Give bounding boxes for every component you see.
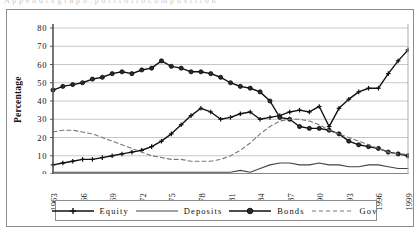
circle-marker xyxy=(150,66,154,70)
circle-marker xyxy=(120,70,124,74)
chart-figure: Percentage 01020304050607080 19631966196… xyxy=(6,9,414,227)
circle-marker xyxy=(248,86,252,90)
series-line xyxy=(53,119,408,161)
circle-marker xyxy=(80,81,84,85)
y-tick-label: 80 xyxy=(37,24,47,33)
circle-marker xyxy=(110,72,114,76)
legend-item-deposits[interactable]: Deposits xyxy=(134,201,228,220)
legend-item-gov[interactable]: Gov xyxy=(310,201,383,220)
series-gov xyxy=(53,119,408,161)
y-tick-label: 70 xyxy=(37,41,47,51)
y-tick-label: 50 xyxy=(37,78,47,88)
circle-marker xyxy=(179,66,183,70)
series-deposits xyxy=(53,163,408,172)
circle-marker xyxy=(140,68,144,72)
chart-svg: 01020304050607080 xyxy=(27,24,409,174)
legend-label: Equity xyxy=(96,206,134,216)
circle-marker xyxy=(297,124,301,128)
circle-marker xyxy=(169,64,173,68)
legend-swatch-plus-marker xyxy=(50,205,96,217)
circle-marker xyxy=(100,75,104,79)
legend-swatch-circle-marker xyxy=(227,205,273,217)
circle-marker xyxy=(268,99,272,103)
ghost-header-text: A p p e n d i x g r a p h : p o r t f o … xyxy=(4,0,216,5)
series-equity xyxy=(51,48,409,168)
circle-marker xyxy=(258,90,262,94)
circle-marker xyxy=(228,81,232,85)
series-line xyxy=(53,163,408,172)
y-tick-label: 0 xyxy=(42,169,47,174)
circle-marker xyxy=(357,143,361,147)
circle-marker xyxy=(317,126,321,130)
series-line xyxy=(53,61,408,156)
legend-swatch-none xyxy=(134,205,180,217)
circle-marker xyxy=(248,208,254,214)
legend-swatch-none xyxy=(310,205,356,217)
page-top-strip: A p p e n d i x g r a p h : p o r t f o … xyxy=(0,0,420,9)
circle-marker xyxy=(189,70,193,74)
circle-marker xyxy=(130,72,134,76)
legend-item-equity[interactable]: Equity xyxy=(50,201,134,220)
series-line xyxy=(53,50,408,165)
circle-marker xyxy=(209,72,213,76)
chart-legend: EquityDepositsBondsGov xyxy=(55,200,377,221)
circle-marker xyxy=(199,70,203,74)
legend-label: Gov xyxy=(356,206,383,216)
series-layer xyxy=(51,48,409,173)
circle-marker xyxy=(347,139,351,143)
y-axis-title: Percentage xyxy=(11,52,25,148)
y-tick-label: 20 xyxy=(37,133,47,143)
circle-marker xyxy=(238,84,242,88)
legend-label: Deposits xyxy=(180,206,228,216)
gridlines-group xyxy=(53,28,408,174)
y-tick-label: 40 xyxy=(37,96,47,106)
y-tick-label: 60 xyxy=(37,60,47,70)
circle-marker xyxy=(278,115,282,119)
circle-marker xyxy=(90,77,94,81)
circle-marker xyxy=(71,82,75,86)
circle-marker xyxy=(159,59,163,63)
circle-marker xyxy=(219,75,223,79)
legend-item-bonds[interactable]: Bonds xyxy=(227,201,309,220)
x-tick-label: 1999 xyxy=(404,193,414,211)
circle-marker xyxy=(61,84,65,88)
legend-label: Bonds xyxy=(273,206,309,216)
plot-area: 01020304050607080 xyxy=(27,24,409,174)
circle-marker xyxy=(307,126,311,130)
y-tick-label: 10 xyxy=(37,151,47,161)
series-bonds xyxy=(51,59,409,158)
y-tick-label: 30 xyxy=(37,114,47,124)
